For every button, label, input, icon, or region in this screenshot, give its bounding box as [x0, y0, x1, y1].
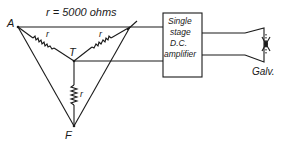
node-a-label: A — [6, 17, 14, 29]
resistor-a-t-label: r — [46, 29, 50, 39]
node-f-dot — [73, 125, 76, 128]
amplifier-line-3: D.C. — [170, 38, 187, 48]
amplifier-line-2: stage — [170, 27, 191, 37]
node-t-dot — [73, 60, 76, 63]
node-t-label: T — [69, 46, 77, 58]
wire-l-t-2 — [74, 47, 92, 61]
amplifier-line-4: amplifier — [164, 49, 197, 59]
galvanometer-label: Galv. — [252, 66, 275, 77]
circuit-diagram: r = 5000 ohms A T F r r r Single stage D… — [0, 0, 282, 145]
amplifier-line-1: Single — [168, 16, 192, 26]
resistor-t-f — [71, 85, 77, 105]
resistor-t-f-label: r — [80, 89, 84, 99]
galvanometer-horn — [245, 28, 264, 62]
galvanometer-icon — [262, 34, 270, 55]
node-f-label: F — [65, 129, 73, 141]
resistance-label: r = 5000 ohms — [46, 6, 117, 18]
wire-a-f — [18, 27, 74, 126]
node-a-dot — [17, 26, 20, 29]
resistor-l-t-label: r — [99, 29, 103, 39]
resistor-a-t — [33, 36, 54, 49]
node-l-tick — [127, 21, 137, 30]
wire-a-t-1 — [18, 27, 33, 38]
